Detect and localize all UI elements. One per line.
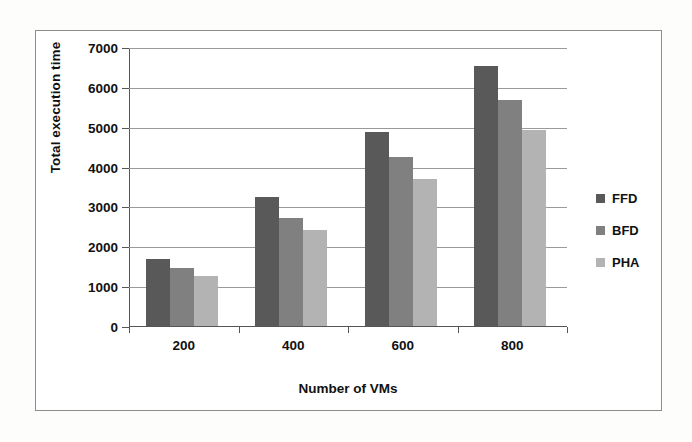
bar-ffd-400 <box>255 197 279 326</box>
y-axis-tick <box>122 207 129 208</box>
bar-bfd-800 <box>498 100 522 326</box>
bar-chart: Total execution time 0100020003000400050… <box>0 0 692 442</box>
bar-bfd-200 <box>170 268 194 326</box>
y-axis-tick-label: 0 <box>110 320 118 335</box>
legend-swatch-icon <box>596 226 605 235</box>
x-axis-tick-label: 800 <box>501 338 524 353</box>
y-axis-tick <box>122 287 129 288</box>
legend-item-bfd: BFD <box>596 214 658 246</box>
plot-area: 01000200030004000500060007000 2004006008… <box>129 48 567 327</box>
y-axis-tick <box>122 247 129 248</box>
y-axis-tick-label: 7000 <box>88 41 118 56</box>
legend-label: BFD <box>612 224 639 237</box>
y-axis-tick <box>122 168 129 169</box>
x-axis-title: Number of VMs <box>129 381 567 396</box>
bar-pha-600 <box>413 179 437 326</box>
x-axis-tick <box>239 327 240 333</box>
y-axis-line <box>129 48 130 327</box>
y-axis-tick <box>122 48 129 49</box>
y-axis-tick-label: 4000 <box>88 160 118 175</box>
legend-swatch-icon <box>596 194 605 203</box>
y-axis-tick-label: 5000 <box>88 120 118 135</box>
bar-pha-400 <box>303 230 327 326</box>
gridline <box>129 88 567 89</box>
bar-ffd-600 <box>365 132 389 326</box>
bar-pha-800 <box>522 130 546 326</box>
x-axis-tick-label: 200 <box>172 338 195 353</box>
y-axis-tick-label: 6000 <box>88 80 118 95</box>
x-axis-tick <box>348 327 349 333</box>
y-axis-title: Total execution time <box>48 13 63 203</box>
y-axis-tick <box>122 327 129 328</box>
x-axis-tick <box>458 327 459 333</box>
x-axis-tick <box>129 327 130 333</box>
y-axis-tick-label: 1000 <box>88 280 118 295</box>
bar-pha-200 <box>194 276 218 326</box>
legend-item-pha: PHA <box>596 246 658 278</box>
y-axis-tick <box>122 128 129 129</box>
y-axis-tick <box>122 88 129 89</box>
legend-label: FFD <box>612 192 637 205</box>
bar-bfd-400 <box>279 218 303 326</box>
x-axis-tick-label: 600 <box>391 338 414 353</box>
bar-ffd-800 <box>474 66 498 326</box>
y-axis-tick-label: 3000 <box>88 200 118 215</box>
y-axis-tick-label: 2000 <box>88 240 118 255</box>
legend-item-ffd: FFD <box>596 182 658 214</box>
legend-label: PHA <box>612 256 639 269</box>
x-axis-tick-label: 400 <box>282 338 305 353</box>
legend-swatch-icon <box>596 258 605 267</box>
chart-legend: FFDBFDPHA <box>596 182 658 278</box>
bar-bfd-600 <box>389 157 413 326</box>
x-axis-tick <box>567 327 568 333</box>
gridline <box>129 48 567 49</box>
bar-ffd-200 <box>146 259 170 326</box>
